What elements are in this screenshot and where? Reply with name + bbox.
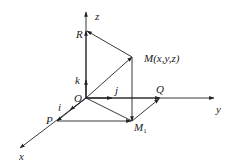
y-axis-label: y: [215, 103, 221, 115]
point-m1-subscript: 1: [143, 127, 147, 135]
om1-line: [86, 98, 132, 121]
point-m1-label: M1: [133, 121, 147, 135]
point-m-label: M(x,y,z): [143, 52, 180, 65]
point-r-label: R: [75, 28, 83, 40]
m1q-vector: [132, 99, 159, 121]
j-label: j: [113, 84, 118, 96]
origin-label: O: [74, 92, 82, 104]
i-label: i: [58, 101, 61, 113]
k-label: k: [75, 74, 81, 86]
z-axis-label: z: [94, 10, 100, 22]
mr-vector: [87, 31, 132, 57]
x-axis-label: x: [18, 150, 24, 162]
point-q-label: Q: [156, 83, 164, 95]
point-p-label: P: [45, 114, 53, 126]
coordinate-diagram: z y x O R M(x,y,z) Q P M1 k j i: [0, 0, 234, 168]
om-vector: [86, 57, 132, 98]
